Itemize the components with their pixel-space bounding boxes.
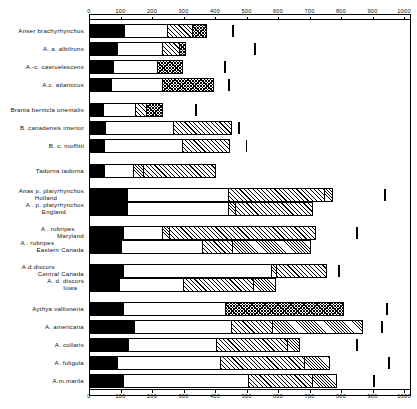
x-axis-tick-label: 800 <box>336 8 346 14</box>
value-marker <box>356 339 358 351</box>
x-axis-tick-label: 900 <box>367 393 377 399</box>
bar-segment-white <box>119 279 184 291</box>
category-label: A.m.marila <box>52 377 84 384</box>
bar-row <box>89 240 311 254</box>
bar-segment-white <box>117 357 220 369</box>
bar-segment-black <box>90 339 128 351</box>
bar-segment-black <box>90 241 121 253</box>
x-axis-tick <box>247 17 248 20</box>
bar-row <box>89 278 276 292</box>
category-label-line1: A.d.discors <box>22 263 84 270</box>
x-axis-tick-label: 800 <box>336 393 346 399</box>
bar-segment-white <box>117 43 163 55</box>
bar-segment-black <box>90 321 134 333</box>
category-label: A.-c. caeruelescens <box>26 63 84 70</box>
category-label: A. collaris <box>55 341 84 348</box>
bar-segment-diag <box>202 241 232 253</box>
bar-segment-diag2 <box>312 375 336 387</box>
bar-segment-black <box>90 279 119 291</box>
category-label-line1: A.c. atlanticus <box>42 81 84 88</box>
x-axis-tick <box>278 17 279 20</box>
bar-segment-white <box>104 165 134 177</box>
category-label: Anas p. platyrhynchosHolland <box>19 187 84 201</box>
bar-segment-white <box>123 375 248 387</box>
bar-segment-white <box>127 203 228 215</box>
x-axis-tick <box>121 17 122 20</box>
category-label-line1: A.m.marila <box>52 377 84 384</box>
bar-segment-diag2 <box>304 357 329 369</box>
bar-segment-diag <box>248 375 312 387</box>
category-label-line2: England <box>26 208 84 215</box>
bar-segment-diag2 <box>253 279 275 291</box>
bar-segment-diag2 <box>324 189 332 201</box>
category-label-line2: Eastern Canada <box>20 246 84 253</box>
value-marker <box>386 303 388 315</box>
x-axis-tick-label: 900 <box>367 8 377 14</box>
bar-segment-cross <box>179 43 185 55</box>
category-label: A . rubripesEastern Canada <box>20 239 84 253</box>
x-axis-tick-label: 500 <box>241 393 251 399</box>
bar-segment-white <box>123 265 272 277</box>
bar-segment-cross <box>162 79 213 91</box>
bar-segment-diag <box>231 321 272 333</box>
x-axis-tick-label: 300 <box>178 393 188 399</box>
bar-segment-black <box>90 357 117 369</box>
x-axis-tick-label: 300 <box>178 8 188 14</box>
bar-segment-diag2 <box>232 241 310 253</box>
category-label-line2: Iowa <box>47 284 84 291</box>
value-marker <box>338 265 340 277</box>
value-marker <box>381 321 383 333</box>
bar-segment-black <box>90 25 124 37</box>
category-label: A . rubripesMaryland <box>41 225 84 239</box>
bar-row <box>89 60 183 74</box>
category-label-line1: A . rubripes <box>41 225 84 232</box>
value-marker <box>356 227 358 239</box>
bar-segment-black <box>90 140 104 152</box>
bar-segment-black <box>90 203 127 215</box>
bar-segment-diag <box>173 122 231 134</box>
bar-segment-diag <box>169 227 315 239</box>
bar-row <box>89 264 327 278</box>
x-axis-tick <box>184 17 185 20</box>
category-label-line1: Branta bernicla orientalis <box>10 106 84 113</box>
bar-segment-white <box>103 104 134 116</box>
bar-segment-black <box>90 79 111 91</box>
category-label-column: Anser brachyrhynchusA. a. albifronsA.-c.… <box>0 0 88 409</box>
category-label-line1: A. collaris <box>55 341 84 348</box>
bar-segment-diag2 <box>228 203 235 215</box>
bar-row <box>89 338 300 352</box>
category-label-line1: A. fuligula <box>54 359 84 366</box>
bar-segment-black <box>90 189 127 201</box>
bar-segment-diag <box>228 189 324 201</box>
bar-row <box>89 24 207 38</box>
category-label: Tadorna tadorna <box>36 167 84 174</box>
bar-segment-diag2 <box>133 165 143 177</box>
x-axis-tick-label: 1000 <box>397 8 411 14</box>
category-label-line1: Anas p. platyrhynchos <box>19 187 84 194</box>
x-axis-tick-label: 0 <box>87 393 90 399</box>
category-label-line1: A . rubripes <box>20 239 84 246</box>
x-axis-tick <box>215 17 216 20</box>
bar-segment-black <box>90 265 123 277</box>
bar-segment-white <box>121 241 202 253</box>
x-axis-tick-label: 200 <box>147 393 157 399</box>
bar-segment-diag <box>235 203 312 215</box>
x-axis-tick <box>341 17 342 20</box>
bar-segment-cross <box>192 25 206 37</box>
bar-row <box>89 374 337 388</box>
x-axis-tick-label: 400 <box>210 393 220 399</box>
x-axis-tick-label: 1000 <box>397 393 411 399</box>
bar-row <box>89 356 330 370</box>
category-label-line1: Anser brachyrhynchus <box>18 27 84 34</box>
category-label: Branta bernicla orientalis <box>10 106 84 113</box>
category-label: B. canadensis interior <box>20 124 84 131</box>
bar-segment-white <box>105 122 173 134</box>
x-axis-tick-label: 600 <box>273 393 283 399</box>
bar-segment-white <box>134 321 231 333</box>
bar-segment-black <box>90 227 123 239</box>
value-marker <box>232 25 234 37</box>
category-label-line1: A. d. discors <box>47 277 84 284</box>
x-axis-tick-label: 200 <box>147 8 157 14</box>
bar-segment-diag <box>135 104 147 116</box>
bar-row <box>89 302 344 316</box>
